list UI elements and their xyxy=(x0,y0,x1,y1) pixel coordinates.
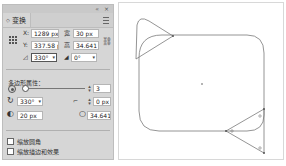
tab-label: 变换 xyxy=(12,15,26,25)
center-point xyxy=(201,83,203,85)
sides-slider-handle[interactable] xyxy=(22,85,29,92)
chevron-down-icon: ▾ xyxy=(38,98,41,105)
polygon-rotate-icon: ↻ xyxy=(7,97,14,105)
tab-toggle-icon[interactable]: ◇ xyxy=(6,17,10,23)
panel-menu-icon[interactable] xyxy=(103,17,109,24)
tab-transform[interactable]: ◇ 变换 xyxy=(3,13,31,27)
sides-input[interactable]: 3 xyxy=(93,84,111,93)
shear-icon: ◢ xyxy=(64,53,69,61)
width-input[interactable]: 30 px xyxy=(73,29,99,38)
rotate-icon: ◿ xyxy=(23,53,28,61)
radius-input[interactable]: 20 px xyxy=(17,111,43,120)
y-label: Y: xyxy=(23,41,28,49)
polygon-rotation-value: 330° xyxy=(20,98,34,105)
rotate-value: 330° xyxy=(34,54,48,61)
polygon-rotation-select[interactable]: 330° ▾ xyxy=(17,97,43,106)
canvas-artwork xyxy=(119,3,285,161)
side-length-input[interactable]: 34.641 px xyxy=(87,111,111,120)
divider xyxy=(6,69,110,70)
corner-widget xyxy=(259,147,261,149)
sides-stepper-icon[interactable]: ▴▾ xyxy=(87,84,92,92)
close-icon[interactable]: × xyxy=(104,6,109,12)
transform-panel: « × ◇ 变换 X: 1289 px 宽 30 px Y: 337.58 px… xyxy=(2,4,114,160)
corner-type-icon: ⌐ xyxy=(73,97,78,105)
y-input[interactable]: 337.58 px xyxy=(31,41,59,50)
chevron-down-icon: ▾ xyxy=(52,54,55,61)
rotate-select[interactable]: 330° ▾ xyxy=(31,53,57,62)
scale-corners-option[interactable]: 缩放圆角 xyxy=(7,137,41,146)
radius-icon: ◐ xyxy=(7,110,14,118)
triangle-top-left xyxy=(136,19,173,59)
scale-corners-checkbox[interactable] xyxy=(7,138,14,145)
scale-strokes-option[interactable]: 缩放描边和效果 xyxy=(7,147,59,156)
side-length-icon: ○ xyxy=(79,110,86,118)
anchor-point xyxy=(172,35,174,37)
chevron-down-icon: ▾ xyxy=(92,54,95,61)
shear-value: 0° xyxy=(74,54,81,61)
anchor-point xyxy=(263,108,265,110)
collapse-icon[interactable]: « xyxy=(95,6,99,12)
artboard-canvas[interactable] xyxy=(118,2,284,160)
shear-select[interactable]: 0° ▾ xyxy=(71,53,97,62)
corner-widget xyxy=(259,115,261,117)
scale-strokes-label: 缩放描边和效果 xyxy=(17,147,59,156)
panel-tab-row: ◇ 变换 xyxy=(3,13,113,28)
rounded-rectangle-shape xyxy=(139,35,264,131)
height-label: 高 xyxy=(64,41,70,49)
divider xyxy=(6,130,110,131)
sides-slider-track[interactable] xyxy=(25,88,85,89)
height-input[interactable]: 34.641 px xyxy=(73,41,99,50)
corner-stepper-icon[interactable]: ▴▾ xyxy=(87,97,92,105)
x-label: X: xyxy=(23,29,29,37)
anchor-point xyxy=(263,152,265,154)
reference-point-icon[interactable] xyxy=(8,35,17,44)
scale-strokes-checkbox[interactable] xyxy=(7,148,14,155)
corner-input[interactable]: 0 px xyxy=(93,97,111,106)
x-input[interactable]: 1289 px xyxy=(31,29,59,38)
constrain-proportions-icon[interactable]: ⛓ xyxy=(102,37,112,46)
scale-corners-label: 缩放圆角 xyxy=(17,137,41,146)
polygon-sides-icon xyxy=(8,85,16,93)
panel-title-bar[interactable]: « × xyxy=(3,5,113,13)
width-label: 宽 xyxy=(64,29,70,37)
anchor-point xyxy=(225,130,227,132)
